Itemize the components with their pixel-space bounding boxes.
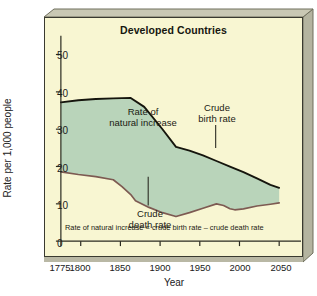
x-axis-ticks [61,241,279,246]
y-axis-ticks [56,54,61,241]
x-axis-title: Year [164,277,184,288]
y-axis-title: Rate per 1,000 people [2,99,13,198]
x-tick-2050: 2050 [270,262,291,273]
x-tick-1900: 1900 [149,262,170,273]
frame-right-face [303,9,313,262]
x-tick-1800: 1800 [69,262,90,273]
natural-increase-annotation: Rate of natural increase [97,106,189,128]
crude-birth-rate-annotation: Crude birth rate [182,102,252,124]
plot-panel: Developed Countries [44,17,303,257]
death-rate-label-line2: death rate [115,219,185,230]
frame-top-face [44,9,313,17]
crude-death-rate-annotation: Crude death rate [115,208,185,230]
figure-root: Developed Countries [0,0,317,296]
birth-rate-label-line1: Crude [182,102,252,113]
x-tick-1950: 1950 [189,262,210,273]
x-tick-1850: 1850 [109,262,130,273]
x-tick-1775: 1775 [49,262,70,273]
natural-increase-label-line2: natural increase [97,117,189,128]
birth-rate-label-line2: birth rate [182,113,252,124]
natural-increase-label-line1: Rate of [97,106,189,117]
death-rate-label-line1: Crude [115,208,185,219]
x-tick-2000: 2000 [229,262,250,273]
